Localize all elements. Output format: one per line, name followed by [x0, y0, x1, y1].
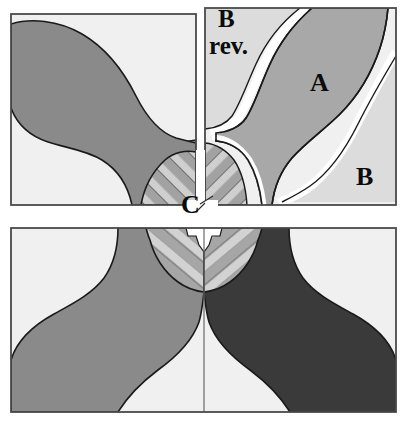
- label-a: A: [310, 70, 329, 96]
- label-b-rev: B rev.: [209, 6, 248, 58]
- label-b-rev-line2: rev.: [209, 33, 248, 58]
- label-b: B: [356, 164, 373, 190]
- top-left-panel: [11, 14, 196, 205]
- bottom-panel: [11, 226, 396, 412]
- label-b-rev-line1: B: [209, 6, 248, 31]
- figure-svg: [0, 0, 408, 421]
- figure-root: B rev. A B C: [0, 0, 408, 421]
- label-c: C: [181, 192, 200, 218]
